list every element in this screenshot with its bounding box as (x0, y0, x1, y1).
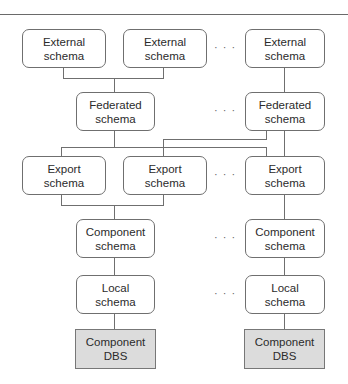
external-schema-box-3: External schema (245, 29, 325, 68)
box-label-line1: Component (255, 335, 314, 349)
federated-schema-box-2: Federated schema (245, 92, 325, 131)
connector (163, 139, 267, 140)
external-schema-box-2: External schema (123, 29, 207, 68)
connector (284, 68, 285, 92)
top-rule (0, 14, 348, 15)
box-label-line2: schema (95, 112, 135, 126)
connector (114, 78, 115, 92)
connector (284, 195, 285, 219)
export-schema-box-1: Export schema (22, 156, 106, 195)
ellipsis: · · · (210, 41, 240, 53)
connector (114, 205, 115, 219)
connector (284, 131, 285, 156)
box-label-line2: schema (265, 239, 305, 253)
connector (284, 258, 285, 275)
connector (114, 314, 115, 330)
connector (61, 147, 267, 148)
connector (61, 205, 164, 206)
box-label-line1: External (43, 35, 85, 49)
box-label-line2: schema (265, 176, 305, 190)
box-label-line1: Component (255, 225, 314, 239)
ellipsis: · · · (210, 168, 240, 180)
box-label-line1: Federated (89, 98, 141, 112)
component-schema-box-2: Component schema (245, 219, 325, 258)
connector (61, 147, 62, 156)
connector (114, 258, 115, 275)
federated-schema-box-1: Federated schema (76, 92, 155, 131)
box-label-line2: schema (95, 239, 135, 253)
export-schema-box-3: Export schema (245, 156, 325, 195)
box-label-line1: Local (102, 281, 130, 295)
box-label-line1: Export (268, 162, 301, 176)
export-schema-box-2: Export schema (123, 156, 207, 195)
box-label-line2: DBS (104, 349, 128, 363)
box-label-line2: schema (145, 49, 185, 63)
box-label-line1: Federated (259, 98, 311, 112)
ellipsis: · · · (210, 104, 240, 116)
component-dbs-box-1: Component DBS (75, 329, 156, 369)
box-label-line2: schema (44, 49, 84, 63)
box-label-line1: Export (148, 162, 181, 176)
connector (163, 139, 164, 156)
box-label-line2: schema (265, 112, 305, 126)
component-schema-box-1: Component schema (76, 219, 155, 258)
component-dbs-box-2: Component DBS (244, 329, 325, 369)
box-label-line2: DBS (273, 349, 297, 363)
box-label-line1: Export (47, 162, 80, 176)
box-label-line1: Component (86, 335, 145, 349)
box-label-line1: External (144, 35, 186, 49)
box-label-line2: schema (265, 49, 305, 63)
box-label-line2: schema (44, 176, 84, 190)
box-label-line1: Local (271, 281, 299, 295)
connector (266, 147, 267, 156)
local-schema-box-2: Local schema (245, 275, 325, 314)
box-label-line2: schema (95, 295, 135, 309)
connector (114, 131, 115, 148)
box-label-line2: schema (145, 176, 185, 190)
local-schema-box-1: Local schema (76, 275, 155, 314)
connector (284, 314, 285, 330)
box-label-line1: External (264, 35, 306, 49)
box-label-line2: schema (265, 295, 305, 309)
ellipsis: · · · (210, 231, 240, 243)
ellipsis: · · · (210, 287, 240, 299)
external-schema-box-1: External schema (22, 29, 106, 68)
box-label-line1: Component (86, 225, 145, 239)
